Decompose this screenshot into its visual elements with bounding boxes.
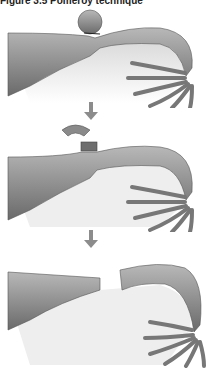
ligated-stump bbox=[81, 142, 97, 151]
tube-loop bbox=[78, 10, 102, 34]
arrow-1 bbox=[0, 100, 221, 122]
step-3-panel bbox=[0, 250, 221, 368]
step-2-panel bbox=[0, 122, 221, 232]
step-1-panel bbox=[0, 8, 221, 108]
excised-segment bbox=[62, 125, 90, 136]
arrow-2 bbox=[0, 228, 221, 250]
figure-title: Figure 3.5 Pomeroy technique bbox=[0, 0, 143, 6]
